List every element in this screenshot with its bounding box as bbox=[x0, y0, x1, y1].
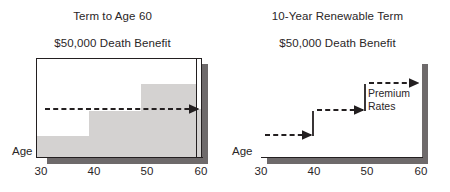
x-tick-60-left: 60 bbox=[189, 165, 213, 177]
x-axis-line-right bbox=[261, 157, 423, 158]
x-tick-50-right: 50 bbox=[355, 165, 379, 177]
x-tick-40-right: 40 bbox=[302, 165, 326, 177]
x-tick-40-left: 40 bbox=[82, 165, 106, 177]
plot-shadow-bottom-right-chart bbox=[267, 158, 428, 164]
premium-step-1-fill bbox=[37, 136, 89, 158]
x-tick-30-left: 30 bbox=[29, 165, 53, 177]
plot-area-right-chart bbox=[36, 58, 197, 158]
chart-title-right: 10-Year Renewable Term bbox=[225, 10, 450, 22]
benefit-label-right: $50,000 Death Benefit bbox=[225, 37, 450, 49]
benefit-label-left: $50,000 Death Benefit bbox=[0, 37, 225, 49]
x-tick-30-right: 30 bbox=[249, 165, 273, 177]
x-tick-50-left: 50 bbox=[135, 165, 159, 177]
axis-label-age-right: Age bbox=[232, 145, 252, 157]
x-tick-60-right: 60 bbox=[409, 165, 433, 177]
plot-shadow-right-left-chart bbox=[202, 64, 208, 164]
plot-shadow-right-right-chart bbox=[422, 64, 428, 164]
plot-shadow-bottom-left-chart bbox=[47, 158, 208, 164]
chart-title-left: Term to Age 60 bbox=[0, 10, 225, 22]
insurance-premium-figure: Term to Age 60 $50,000 Death Benefit Age… bbox=[0, 0, 450, 192]
premium-step-2-fill bbox=[89, 111, 141, 158]
premium-rates-label-right: Premium Rates bbox=[368, 87, 426, 113]
axis-label-age-left: Age bbox=[12, 145, 32, 157]
premium-step-3-fill bbox=[141, 84, 197, 158]
